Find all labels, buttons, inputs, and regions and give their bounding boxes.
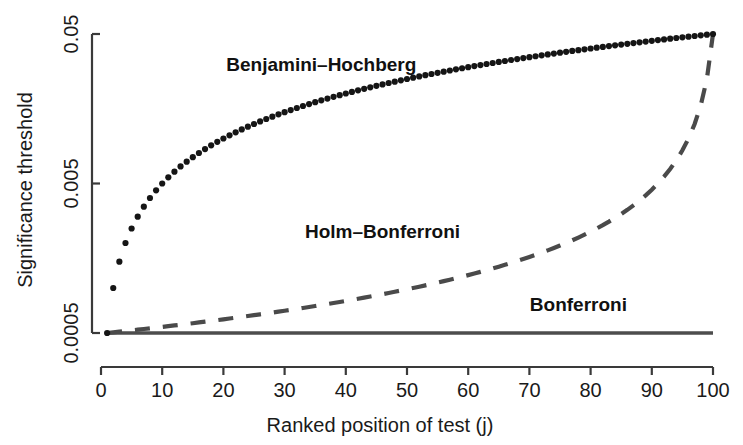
- x-tick-label-3: 30: [273, 379, 295, 401]
- bh-point: [202, 146, 208, 152]
- bh-point: [520, 55, 526, 61]
- bh-point: [190, 154, 196, 160]
- bh-point: [349, 89, 355, 95]
- bh-point: [545, 51, 551, 57]
- bh-point: [226, 132, 232, 138]
- bh-point: [379, 81, 385, 87]
- bh-point: [122, 240, 128, 246]
- series-benjamini-hochberg: [104, 31, 716, 336]
- y-tick-label-2: 0.0005: [60, 302, 82, 363]
- bh-point: [588, 45, 594, 51]
- bh-point: [233, 129, 239, 135]
- bh-point: [649, 38, 655, 44]
- bh-point: [324, 95, 330, 101]
- bh-point: [606, 43, 612, 49]
- bh-point: [490, 60, 496, 66]
- bh-point: [312, 99, 318, 105]
- bh-point: [367, 84, 373, 90]
- bh-point: [171, 169, 177, 175]
- x-tick-label-1: 10: [151, 379, 173, 401]
- bh-point: [673, 35, 679, 41]
- bh-point: [679, 34, 685, 40]
- bh-point: [704, 32, 710, 38]
- bh-point: [532, 53, 538, 59]
- bh-point: [551, 50, 557, 56]
- bh-point: [184, 159, 190, 165]
- bh-point: [239, 126, 245, 132]
- x-tick-label-2: 20: [212, 379, 234, 401]
- bh-point: [330, 94, 336, 100]
- bh-point: [477, 62, 483, 68]
- bh-point: [435, 70, 441, 76]
- bh-point: [153, 187, 159, 193]
- bh-point: [661, 36, 667, 42]
- bh-point: [147, 195, 153, 201]
- figure-significance-threshold-chart: 0.05 0.005 0.0005 Significance threshold…: [0, 0, 743, 445]
- bh-point: [600, 44, 606, 50]
- bh-point: [502, 58, 508, 64]
- bh-point: [416, 73, 422, 79]
- x-tick-label-9: 90: [641, 379, 663, 401]
- bh-point: [465, 64, 471, 70]
- bh-point: [355, 87, 361, 93]
- bh-point: [294, 105, 300, 111]
- bh-point: [386, 80, 392, 86]
- bh-point: [269, 114, 275, 120]
- bh-point: [630, 40, 636, 46]
- bh-point: [692, 33, 698, 39]
- bh-point: [563, 49, 569, 55]
- bh-point: [214, 139, 220, 145]
- bh-point: [337, 92, 343, 98]
- bh-point: [159, 180, 165, 186]
- bh-point: [288, 107, 294, 113]
- bh-point: [129, 225, 135, 231]
- x-tick-label-6: 60: [457, 379, 479, 401]
- bh-point: [165, 174, 171, 180]
- bh-point: [643, 38, 649, 44]
- bh-point: [141, 204, 147, 210]
- bh-point: [392, 79, 398, 85]
- bh-point: [483, 61, 489, 67]
- bh-point: [453, 66, 459, 72]
- y-tick-label-0: 0.05: [60, 15, 82, 54]
- bh-point: [104, 330, 110, 336]
- x-tick-label-10: 100: [696, 379, 729, 401]
- bh-point: [282, 109, 288, 115]
- bh-point: [710, 31, 716, 37]
- bh-point: [361, 86, 367, 92]
- bh-point: [208, 142, 214, 148]
- bh-point: [441, 69, 447, 75]
- bh-point: [594, 45, 600, 51]
- series-label-benjamini-hochberg: Benjamini–Hochberg: [226, 54, 416, 75]
- bh-point: [343, 90, 349, 96]
- bh-point: [557, 50, 563, 56]
- bh-point: [263, 116, 269, 122]
- bh-point: [318, 97, 324, 103]
- bh-point: [177, 163, 183, 169]
- bh-point: [471, 63, 477, 69]
- bh-point: [526, 54, 532, 60]
- bh-point: [612, 42, 618, 48]
- bh-point: [428, 71, 434, 77]
- bh-point: [245, 124, 251, 130]
- x-tick-label-0: 0: [95, 379, 106, 401]
- x-tick-label-5: 50: [396, 379, 418, 401]
- bh-point: [447, 67, 453, 73]
- bh-point: [636, 39, 642, 45]
- bh-point: [698, 32, 704, 38]
- bh-point: [508, 57, 514, 63]
- bh-point: [220, 135, 226, 141]
- bh-point: [655, 37, 661, 43]
- bh-point: [300, 103, 306, 109]
- bh-point: [569, 48, 575, 54]
- bh-point: [135, 214, 141, 220]
- bh-point: [685, 34, 691, 40]
- bh-point: [624, 41, 630, 47]
- bh-point: [514, 56, 520, 62]
- bh-point: [275, 111, 281, 117]
- x-tick-label-8: 80: [579, 379, 601, 401]
- chart-canvas: 0.05 0.005 0.0005 Significance threshold…: [0, 0, 743, 445]
- series-label-bonferroni: Bonferroni: [530, 294, 627, 315]
- bh-point: [422, 72, 428, 78]
- bh-point: [410, 75, 416, 81]
